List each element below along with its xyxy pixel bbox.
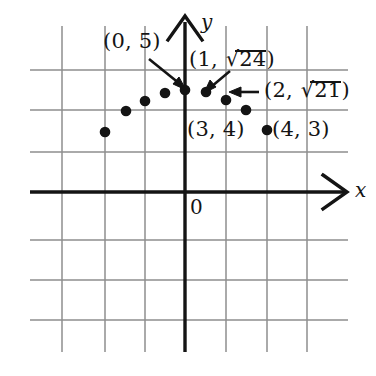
leader-line-p0: [149, 59, 180, 84]
data-point: [121, 106, 132, 117]
point-label-1-sqrt24: (1, √24): [189, 49, 275, 70]
data-point: [262, 125, 273, 136]
coordinate-plot-figure: (0, 5) (1, √24) (2, √21) (3, 4) (4, 3) y…: [0, 0, 376, 376]
leader-arrowhead-p2: [229, 87, 241, 97]
axis-arrowheads: [168, 16, 347, 209]
x-axis-label: x: [355, 180, 366, 200]
plot-canvas: [0, 0, 376, 376]
point-label-3-4: (3, 4): [187, 119, 245, 140]
point-label-1-open: (1,: [189, 47, 225, 71]
origin-label: 0: [190, 197, 203, 217]
sqrt-21-radical: √21: [300, 80, 342, 101]
sqrt-24-radical: √24: [225, 49, 267, 70]
radical-overbar-21: [310, 81, 342, 83]
point-label-2-close: ): [341, 78, 349, 102]
data-point: [221, 95, 232, 106]
data-point: [140, 96, 151, 107]
point-label-0-5: (0, 5): [103, 31, 161, 52]
point-label-1-close: ): [266, 47, 274, 71]
data-point: [160, 88, 171, 99]
point-label-2-sqrt21: (2, √21): [264, 80, 350, 101]
radical-overbar-24: [235, 50, 267, 52]
point-label-2-open: (2,: [264, 78, 300, 102]
y-axis-label: y: [201, 12, 212, 32]
point-label-4-3: (4, 3): [272, 119, 330, 140]
grid-horizontal-lines: [30, 70, 348, 320]
axes: [30, 22, 344, 352]
data-point: [241, 105, 252, 116]
data-point: [100, 127, 111, 138]
